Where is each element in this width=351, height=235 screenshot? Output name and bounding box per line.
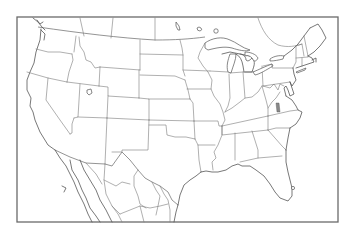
nm-tx-border [112, 120, 149, 152]
wa-or-border [36, 49, 72, 54]
or-id-border [67, 54, 73, 82]
fl-north-border [240, 156, 282, 162]
tn-south-border [222, 126, 268, 135]
ks-mo-border [190, 99, 194, 121]
in-oh-border [243, 72, 245, 98]
sc-ga-border [268, 130, 286, 150]
us-west [27, 29, 149, 166]
ok-ar-border [194, 121, 195, 139]
sd-ne-border [140, 75, 185, 80]
baja-west-coast [55, 150, 92, 222]
mn-ia-border [183, 70, 210, 71]
baja-island [62, 186, 66, 192]
nuevo-leon-border [152, 182, 160, 215]
vt-nh-border [296, 44, 304, 56]
lake-huron [245, 52, 258, 61]
rio-grande-border [122, 152, 178, 205]
wa-id-border [74, 36, 76, 52]
canadian-lake [214, 29, 218, 33]
id-nv-ut-border [67, 82, 99, 86]
ne-ia-border [185, 80, 190, 99]
pacific-coastline [27, 29, 55, 150]
id-wy-border [99, 67, 100, 86]
al-ga-border [252, 131, 258, 158]
us-mexico-border-west [55, 150, 122, 166]
wy-co-border [99, 86, 139, 98]
maine-coast [308, 24, 326, 56]
chesapeake-bay [284, 82, 294, 96]
mt-wy-border [100, 67, 140, 70]
dakota-mn-border [180, 40, 185, 76]
sonora-border [86, 163, 102, 184]
carolina-coast [286, 96, 302, 128]
chihuahua-south-border [104, 180, 130, 186]
tx-la-border [195, 139, 201, 172]
il-in-border [225, 74, 230, 112]
nh-me-border [304, 36, 308, 56]
bc-alberta-border [80, 18, 84, 36]
lake-ontario [270, 56, 284, 61]
ohio-river [225, 86, 262, 112]
nv-ut-border [74, 84, 80, 118]
bc-coast [33, 18, 45, 30]
lake-okeechobee [291, 186, 294, 189]
st-lawrence-river [284, 28, 310, 56]
ut-az-border [78, 117, 107, 118]
mississippi-river-north [208, 72, 225, 126]
or-ca-nv-border [27, 72, 67, 82]
ontario-quebec-border [258, 18, 302, 47]
co-nm-border [107, 118, 149, 120]
ky-wv-va-border [262, 86, 268, 116]
ks-ok-border [149, 120, 194, 121]
us-northeast [263, 24, 326, 128]
ky-tn-border [222, 116, 268, 126]
sc-ga-coast [286, 128, 290, 150]
ca-nv-border [46, 78, 70, 134]
canadian-lake [197, 27, 202, 31]
mississippi-river-south [212, 126, 222, 170]
us-southeast [198, 103, 295, 201]
lake-superior [205, 38, 250, 51]
gulf-and-florida-coast [201, 150, 292, 201]
lake-erie [253, 64, 273, 75]
tamaulipas-border [160, 186, 170, 222]
wi-il-border [210, 71, 228, 72]
co-ks-border [139, 98, 149, 120]
mo-ar-border [194, 121, 222, 126]
ut-co-border [107, 96, 108, 118]
pa-md-border [263, 82, 290, 86]
great-lakes [205, 28, 310, 75]
nv-az-border [70, 118, 74, 134]
va-nc-border [268, 110, 298, 116]
az-nm-border [105, 118, 107, 164]
lake-michigan [227, 54, 236, 73]
ny-east-border [293, 46, 296, 68]
gulf-of-california-east [80, 160, 112, 222]
coahuila-border [134, 170, 146, 208]
mexico-gulf-coast [174, 205, 178, 222]
chihuahua-west-border [104, 164, 120, 214]
ok-tx-border [149, 125, 195, 139]
nc-sc-border [268, 128, 290, 130]
mexico-south-borders [112, 206, 144, 222]
nd-sd-border [140, 54, 183, 55]
baja-east-coast [70, 160, 100, 222]
id-mt-border [79, 37, 100, 68]
mexico-interior-border [120, 204, 168, 214]
long-island [296, 68, 306, 73]
great-salt-lake [87, 89, 92, 95]
us-outline-map [0, 0, 351, 235]
highlight-marker [276, 103, 280, 112]
canada-region [33, 18, 302, 47]
map-frame [17, 17, 338, 222]
puget-sound [41, 30, 45, 40]
texas-gulf-coast [178, 172, 201, 205]
alberta-sask-border [111, 18, 113, 38]
map-canvas [0, 0, 351, 235]
lake-winnipeg [176, 22, 180, 30]
wv-va-border [263, 84, 284, 108]
new-jersey-coast [290, 68, 296, 86]
